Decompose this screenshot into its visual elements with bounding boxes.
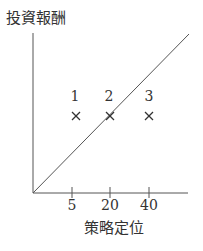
cross-marker-1 — [72, 112, 80, 120]
cross-marker-2 — [106, 112, 114, 120]
diagonal-line — [33, 34, 189, 193]
x-tick-label-5: 5 — [68, 197, 77, 213]
diagram-canvas — [0, 0, 203, 251]
cross-marker-3 — [145, 112, 153, 120]
point-label-2: 2 — [105, 88, 114, 104]
x-tick-label-20: 20 — [101, 197, 119, 213]
point-label-1: 1 — [71, 88, 80, 104]
x-tick-label-40: 40 — [140, 197, 158, 213]
point-label-3: 3 — [145, 88, 154, 104]
x-axis-label: 策略定位 — [84, 216, 144, 237]
